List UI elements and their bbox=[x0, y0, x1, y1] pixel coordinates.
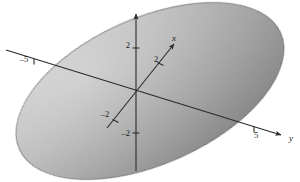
surface-disk bbox=[0, 0, 300, 182]
figure-canvas: –5 5 y –2 2 x 2 –2 bbox=[0, 0, 300, 182]
y-axis-tick-label-neg5: –5 bbox=[19, 54, 29, 64]
x-axis-tick-label-neg2: –2 bbox=[100, 109, 110, 119]
x-axis-name-label: x bbox=[171, 33, 176, 43]
z-axis-tick-label-neg2: –2 bbox=[121, 128, 131, 138]
plot-svg: –5 5 y –2 2 x 2 –2 bbox=[0, 0, 300, 182]
x-axis-tick-label-2: 2 bbox=[154, 54, 158, 64]
y-axis-name-label: y bbox=[288, 133, 293, 143]
z-axis-tick-label-2: 2 bbox=[126, 40, 130, 50]
y-axis-tick-label-5: 5 bbox=[254, 130, 258, 140]
